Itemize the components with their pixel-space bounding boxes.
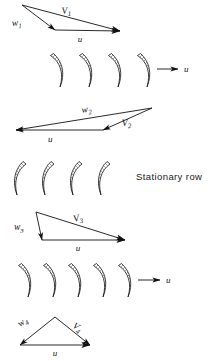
blade-row-2: Stationary row — [2, 144, 202, 212]
blade — [86, 144, 116, 212]
blade-row-1-motion-label: u — [184, 64, 189, 74]
blade — [10, 240, 42, 314]
triangle-3: V3 w3 u — [14, 212, 125, 253]
triangle-1-absolute-label: V1 — [61, 5, 71, 18]
stationary-row-label: Stationary row — [136, 171, 202, 182]
triangle-1-relative-label: w1 — [11, 17, 22, 29]
triangle-3-blade-speed-label: u — [76, 243, 81, 253]
triangle-2: w2 V2 u — [16, 103, 152, 144]
blade — [85, 240, 117, 314]
triangle-1-absolute-velocity-vector — [22, 5, 120, 31]
blade-row-1: u — [42, 30, 189, 104]
blade — [30, 144, 60, 212]
triangle-2-blade-speed-label: u — [48, 134, 53, 144]
triangle-3-absolute-label: V3 — [72, 212, 84, 226]
triangle-4-absolute-velocity-vector — [55, 317, 90, 345]
blade — [71, 30, 103, 104]
triangle-2-absolute-label: V2 — [121, 117, 132, 129]
velocity-triangle-diagram: V1 w1 u u w2 V2 u Stationary row V3 w3 u — [0, 0, 220, 361]
triangle-1-blade-speed-vector — [55, 30, 120, 31]
triangle-4-relative-label: w4 — [16, 315, 31, 330]
triangle-1: V1 w1 u — [11, 5, 120, 44]
blade-row-3-motion-label: u — [166, 275, 171, 285]
blade-row-3: u — [10, 240, 171, 314]
triangle-3-relative-velocity-vector — [36, 212, 42, 240]
blade — [35, 240, 67, 314]
triangle-4: w4 V4 u — [16, 315, 90, 358]
triangle-4-absolute-label: V4 — [70, 320, 85, 335]
blade — [110, 240, 142, 314]
triangle-4-blade-speed-label: u — [53, 348, 58, 358]
triangle-1-relative-velocity-vector — [22, 5, 55, 30]
blade — [58, 144, 88, 212]
triangle-1-blade-speed-label: u — [78, 34, 83, 44]
blade — [100, 30, 132, 104]
triangle-3-relative-label: w3 — [14, 222, 24, 234]
blade — [2, 144, 32, 212]
triangle-2-relative-label: w2 — [81, 103, 93, 116]
blade — [129, 30, 161, 104]
blade — [42, 30, 74, 104]
